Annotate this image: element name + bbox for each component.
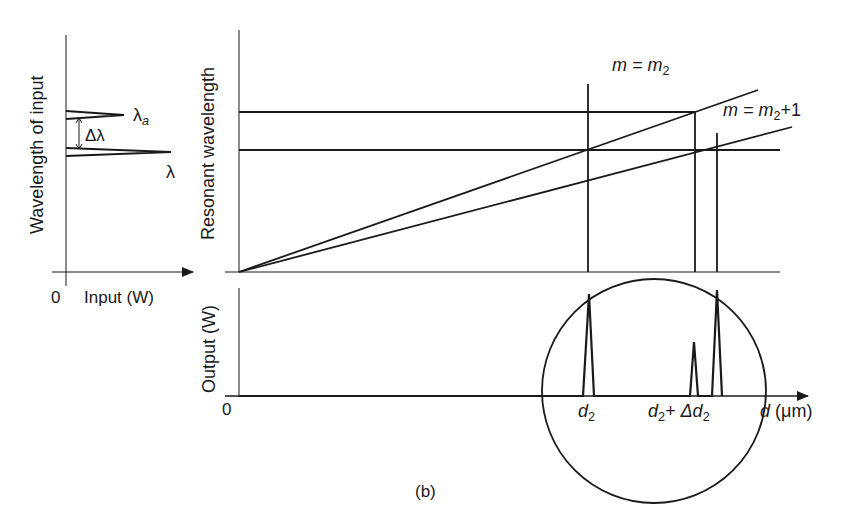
d-unit: (μm) <box>770 401 812 421</box>
lambda-a-subscript: a <box>142 114 149 128</box>
lambda-a-label: λa <box>133 106 149 128</box>
figure-canvas <box>0 0 846 515</box>
m2-line-label: m = m2 <box>612 56 670 78</box>
m2-line <box>239 90 758 272</box>
output-y-label: Output (W) <box>200 305 218 393</box>
output-panel <box>225 279 808 503</box>
m2-plus-1-line <box>239 127 792 272</box>
m2-label-sub: 2 <box>663 64 670 78</box>
resonance-panel <box>225 30 792 272</box>
input-y-label: Wavelength of input <box>28 76 46 234</box>
d2-sub: 2 <box>588 410 595 424</box>
input-panel <box>52 35 193 286</box>
resonance-y-label: Resonant wavelength <box>199 67 217 240</box>
highlight-circle <box>542 279 766 503</box>
lambda-label: λ <box>166 163 175 181</box>
lambda-peak <box>66 148 171 156</box>
output-trace <box>239 290 722 396</box>
dd-base: d <box>648 401 658 421</box>
dd-post: + Δd <box>665 401 703 421</box>
m2p1-label-text: m = m <box>723 100 774 120</box>
m2-plus-1-line-label: m = m2+1 <box>723 101 801 123</box>
output-origin-label: 0 <box>222 401 231 418</box>
input-x-label: Input (W) <box>84 289 154 306</box>
input-origin-label: 0 <box>51 289 60 306</box>
m2p1-label-post: +1 <box>781 100 802 120</box>
lambda-a-base: λ <box>133 105 142 125</box>
dd-sub2: 2 <box>703 410 710 424</box>
dd-sub: 2 <box>658 410 665 424</box>
lambda-a-peak <box>66 111 124 119</box>
delta-lambda-label: Δλ <box>85 127 105 144</box>
figure-caption: (b) <box>415 483 436 500</box>
m2p1-label-sub: 2 <box>774 109 781 123</box>
d2-base: d <box>578 401 588 421</box>
m2-label-text: m = m <box>612 55 663 75</box>
d-var: d <box>760 401 770 421</box>
d2-plus-delta-tick-label: d2+ Δd2 <box>648 402 710 424</box>
output-x-label: d (μm) <box>760 402 812 420</box>
d2-tick-label: d2 <box>578 402 595 424</box>
